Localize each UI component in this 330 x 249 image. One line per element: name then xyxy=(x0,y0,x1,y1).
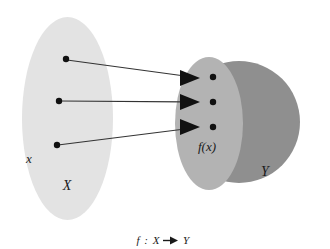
image-point-2 xyxy=(210,99,216,105)
domain-point-3 xyxy=(54,142,60,148)
domain-point-2 xyxy=(56,98,62,104)
function-diagram-figure: x X f(x) Y f : X Y xyxy=(0,0,330,249)
caption-arrow-icon xyxy=(163,237,178,245)
caption: f : X Y xyxy=(136,234,190,246)
image-point-3 xyxy=(210,124,216,130)
caption-function-symbol: f xyxy=(136,234,141,246)
image-point-1 xyxy=(210,74,216,80)
domain-element-label: x xyxy=(25,151,32,166)
domain-point-1 xyxy=(63,56,69,62)
caption-codomain-symbol: Y xyxy=(183,234,191,246)
caption-colon: : xyxy=(144,234,148,246)
caption-domain-symbol: X xyxy=(152,234,161,246)
domain-set-label: X xyxy=(62,178,72,193)
diagram-canvas: x X f(x) Y f : X Y xyxy=(0,0,330,249)
image-set-label: f(x) xyxy=(198,139,216,154)
